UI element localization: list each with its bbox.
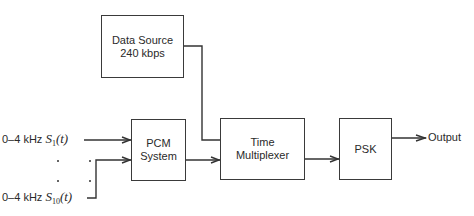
- input-s10-band: 0–4 kHz: [2, 191, 42, 203]
- pcm-system-block: PCM System: [131, 119, 186, 181]
- pcm-label-1: PCM: [146, 137, 170, 150]
- psk-block: PSK: [339, 118, 392, 180]
- connector-lines: [0, 0, 474, 216]
- input-s10-label: 0–4 kHz S10(t): [2, 189, 72, 206]
- input-s1-label: 0–4 kHz S1(t): [2, 131, 68, 148]
- data-source-label: Data Source: [112, 34, 173, 47]
- ellipsis-dot: [89, 180, 91, 182]
- data-source-block: Data Source 240 kbps: [101, 15, 184, 78]
- time-multiplexer-block: Time Multiplexer: [220, 118, 305, 180]
- ellipsis-dot: [89, 160, 91, 162]
- pcm-label-2: System: [140, 150, 177, 163]
- input-s1-band: 0–4 kHz: [2, 133, 42, 145]
- ellipsis-dot: [57, 180, 59, 182]
- output-label: Output: [428, 131, 461, 143]
- psk-label: PSK: [354, 143, 376, 156]
- input-s1-symbol: S1(t): [45, 131, 68, 146]
- mux-label-2: Multiplexer: [236, 149, 289, 162]
- data-source-rate: 240 kbps: [120, 47, 165, 60]
- input-s10-symbol: S10(t): [45, 189, 72, 204]
- ellipsis-dot: [57, 160, 59, 162]
- mux-label-1: Time: [250, 136, 274, 149]
